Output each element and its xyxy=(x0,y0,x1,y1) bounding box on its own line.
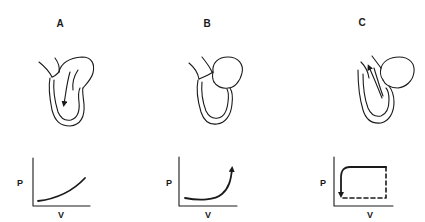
heart-b-icon xyxy=(189,57,242,124)
graph-c-ylabel: P xyxy=(320,178,326,188)
graph-b-ylabel: P xyxy=(166,178,172,188)
graph-a-curve xyxy=(38,178,85,201)
panel-label-b: B xyxy=(203,18,210,29)
graph-c-xlabel: V xyxy=(367,210,373,220)
graph-a-ylabel: P xyxy=(17,178,23,188)
graph-a xyxy=(33,158,90,206)
graph-b-xlabel: V xyxy=(205,210,211,220)
heart-c-icon xyxy=(358,56,414,123)
graph-c xyxy=(334,157,393,206)
graph-c-solid-loop xyxy=(341,167,386,195)
graph-a-xlabel: V xyxy=(58,210,64,220)
graph-c-dashed-loop xyxy=(343,167,386,198)
graph-b xyxy=(179,157,237,206)
panel-label-a: A xyxy=(56,18,63,29)
graph-b-curve xyxy=(185,169,232,200)
heart-a-icon xyxy=(39,57,94,126)
panel-label-c: C xyxy=(358,17,365,28)
figure-canvas xyxy=(0,0,425,222)
